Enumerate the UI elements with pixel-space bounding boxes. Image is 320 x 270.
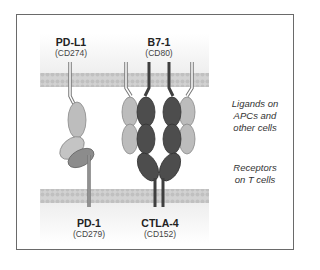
pd-l1-name: PD-L1 (48, 36, 94, 48)
ctla-4-name: CTLA-4 (134, 217, 186, 229)
ctla-4-label: CTLA-4 (CD152) (134, 217, 186, 239)
ligands-note-line-3: other cells (222, 122, 288, 134)
ligands-note-line-2: APCs and (222, 110, 288, 122)
pd-1-name: PD-1 (66, 217, 112, 229)
tcell-membrane (40, 189, 209, 203)
pd-l1-label: PD-L1 (CD274) (48, 36, 94, 58)
b7-1-name: B7-1 (136, 36, 182, 48)
pd-1-cd: (CD279) (66, 229, 112, 239)
ligands-note: Ligands on APCs and other cells (222, 98, 288, 134)
pd-l1-cd: (CD274) (48, 48, 94, 58)
receptors-note-line-1: Receptors (222, 162, 288, 174)
receptors-note-line-2: on T cells (222, 174, 288, 186)
b7-1-cd: (CD80) (136, 48, 182, 58)
ligands-note-line-1: Ligands on (222, 98, 288, 110)
pd-1-label: PD-1 (CD279) (66, 217, 112, 239)
ctla-4-cd: (CD152) (134, 229, 186, 239)
receptors-note: Receptors on T cells (222, 162, 288, 186)
b7-1-label: B7-1 (CD80) (136, 36, 182, 58)
